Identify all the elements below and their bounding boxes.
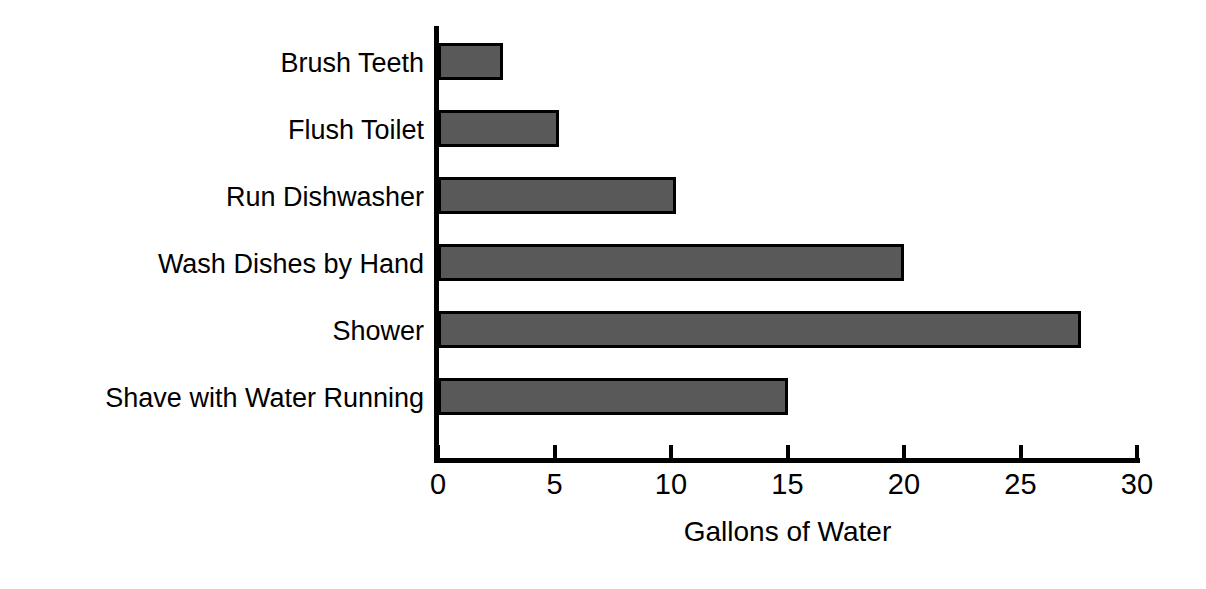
bar-row (438, 28, 1137, 95)
bar (438, 244, 904, 281)
bar (438, 177, 676, 214)
category-label: Shave with Water Running (0, 383, 424, 414)
tick-mark (1135, 445, 1139, 461)
bar (438, 378, 788, 415)
bar (438, 43, 503, 80)
bar-row (438, 162, 1137, 229)
tick-label: 10 (655, 470, 687, 499)
tick-label: 20 (888, 470, 920, 499)
bar-row (438, 363, 1137, 430)
value-axis-title: Gallons of Water (438, 518, 1137, 546)
bar-chart: Brush TeethFlush ToiletRun DishwasherWas… (0, 0, 1206, 589)
tick-label: 15 (771, 470, 803, 499)
tick-mark (436, 445, 440, 461)
category-label: Wash Dishes by Hand (0, 249, 424, 280)
tick-mark (669, 445, 673, 461)
tick-label: 0 (430, 470, 446, 499)
bar-row (438, 95, 1137, 162)
tick-label: 25 (1004, 470, 1036, 499)
tick-label: 5 (546, 470, 562, 499)
bar (438, 110, 559, 147)
bar-row (438, 229, 1137, 296)
bar-row (438, 296, 1137, 363)
category-label: Run Dishwasher (0, 182, 424, 213)
tick-mark (1019, 445, 1023, 461)
bar (438, 311, 1081, 348)
tick-mark (553, 445, 557, 461)
category-label: Brush Teeth (0, 48, 424, 79)
tick-mark (902, 445, 906, 461)
category-label: Flush Toilet (0, 115, 424, 146)
tick-label: 30 (1121, 470, 1153, 499)
category-label: Shower (0, 316, 424, 347)
tick-mark (786, 445, 790, 461)
plot-area (438, 28, 1137, 460)
